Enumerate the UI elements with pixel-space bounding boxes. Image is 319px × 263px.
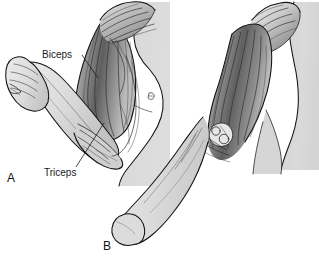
biceps-label: Biceps	[42, 49, 72, 60]
triceps-label: Triceps	[44, 167, 76, 178]
anatomy-figure: Biceps Triceps A	[0, 0, 319, 263]
panel-letter-b: B	[103, 239, 111, 253]
panel-a-flexed-arm: Biceps Triceps A	[6, 2, 170, 186]
panel-letter-a: A	[7, 171, 15, 185]
hand-b	[112, 214, 145, 246]
anatomy-illustration: Biceps Triceps A	[0, 0, 319, 263]
